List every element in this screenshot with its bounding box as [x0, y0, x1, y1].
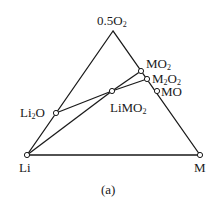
vertex-label-o2: 0.5O2: [97, 14, 127, 28]
point-m: [197, 152, 202, 157]
vertex-label-li: Li: [19, 161, 31, 175]
point-li2o: [53, 110, 58, 115]
point-li: [24, 152, 29, 157]
figure-caption: (a): [101, 183, 115, 197]
point-m2o2: [144, 76, 149, 81]
vertex-label-m: M: [194, 161, 206, 175]
point-mo2: [138, 68, 143, 73]
point-limo2: [109, 88, 114, 93]
tie-line-limo2-mo2: [112, 71, 141, 91]
phase-label-mo: MO: [161, 85, 182, 99]
tie-line-li-limo2: [27, 91, 112, 155]
phase-label-li2o: Li2O: [20, 106, 45, 120]
phase-label-mo2: MO2: [146, 57, 171, 71]
point-mo: [154, 88, 159, 93]
phase-label-limo2: LiMO2: [110, 101, 147, 115]
tie-line-limo2-m2o2: [112, 79, 147, 91]
